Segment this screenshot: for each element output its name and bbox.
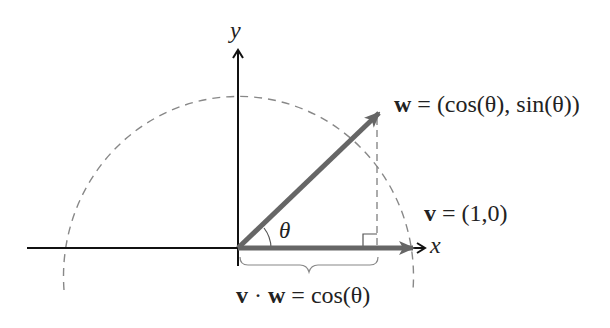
w-symbol: w: [394, 91, 411, 117]
vector-v-label: v = (1,0): [424, 200, 508, 227]
dot-w-symbol: w: [268, 282, 285, 308]
angle-theta-label: θ: [279, 218, 290, 244]
angle-arc: [264, 228, 271, 248]
dot-product-label: v · w = cos(θ): [236, 282, 370, 309]
w-definition: = (cos(θ), sin(θ)): [417, 91, 579, 117]
v-definition: = (1,0): [442, 200, 508, 226]
vector-w: [238, 113, 379, 248]
vector-w-label: w = (cos(θ), sin(θ)): [394, 91, 580, 118]
dot-v-symbol: v: [236, 282, 248, 308]
projection-brace: [240, 257, 378, 272]
x-axis-label: x: [430, 232, 441, 259]
unit-circle-diagram: [0, 0, 610, 328]
v-symbol: v: [424, 200, 436, 226]
y-axis-label: y: [230, 17, 241, 44]
dot-result: = cos(θ): [291, 282, 370, 308]
dot-operator: ·: [254, 282, 262, 308]
